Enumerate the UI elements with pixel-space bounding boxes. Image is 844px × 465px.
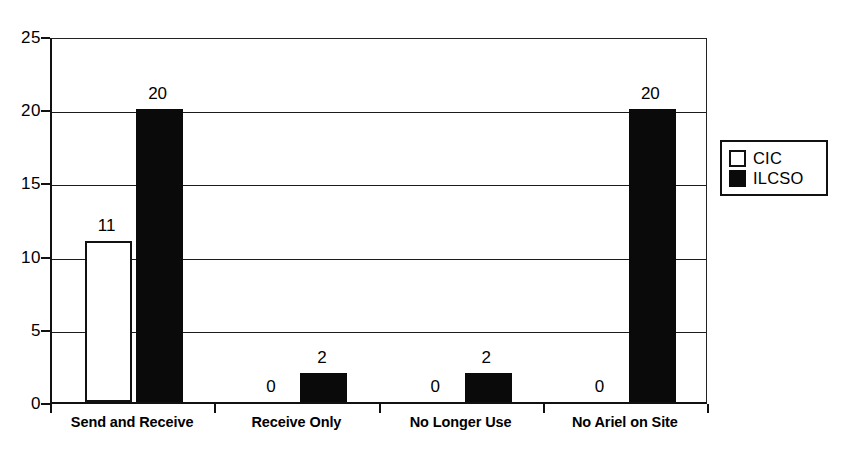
bar-value-label: 20 [641, 84, 660, 104]
legend-swatch-icon [729, 150, 746, 167]
y-axis-tick-mark [41, 257, 50, 259]
bar-ilcso-3 [629, 109, 676, 402]
x-axis-tick-mark [379, 404, 381, 413]
chart-figure: 0510152025 11200202020 Send and ReceiveR… [0, 0, 844, 465]
bar-ilcso-2 [465, 373, 512, 402]
x-axis-category-label: No Longer Use [410, 414, 512, 430]
x-axis-category-label: Send and Receive [71, 414, 194, 430]
bar-value-label: 0 [430, 377, 439, 397]
y-axis-tick-label: 10 [1, 248, 41, 268]
x-axis-tick-mark [214, 404, 216, 413]
legend-label: CIC [753, 150, 782, 167]
x-axis-tick-mark [707, 404, 709, 413]
bar-ilcso-0 [136, 109, 183, 402]
bar-value-label: 0 [266, 377, 275, 397]
bar-value-label: 20 [148, 84, 167, 104]
legend-label: ILCSO [753, 170, 804, 187]
bar-cic-0 [85, 241, 132, 402]
x-axis-tick-mark [543, 404, 545, 413]
y-axis-tick-mark [41, 403, 50, 405]
y-axis-tick-label: 0 [1, 394, 41, 414]
legend-swatch-icon [729, 170, 746, 187]
x-axis-category-label: Receive Only [251, 414, 341, 430]
legend-item-cic[interactable]: CIC [729, 148, 819, 168]
bar-ilcso-1 [300, 373, 347, 402]
y-axis-tick-mark [41, 110, 50, 112]
x-axis-tick-mark [50, 404, 52, 413]
chart-legend: CICILCSO [720, 140, 828, 196]
y-axis-tick-mark [41, 37, 50, 39]
y-axis-tick-label: 5 [1, 321, 41, 341]
y-axis-tick-mark [41, 183, 50, 185]
y-axis-tick-label: 20 [1, 101, 41, 121]
y-axis-tick-label: 15 [1, 174, 41, 194]
x-axis-category-label: No Ariel on Site [572, 414, 678, 430]
bar-value-label: 0 [595, 377, 604, 397]
legend-item-ilcso[interactable]: ILCSO [729, 168, 819, 188]
bar-value-label: 2 [317, 348, 326, 368]
y-axis-tick-label: 25 [1, 28, 41, 48]
bar-value-label: 2 [481, 348, 490, 368]
bar-value-label: 11 [98, 216, 116, 236]
y-axis-tick-mark [41, 330, 50, 332]
